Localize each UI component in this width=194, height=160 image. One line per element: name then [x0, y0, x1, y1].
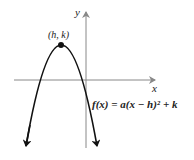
parabola-left-arrow [26, 125, 30, 146]
equation-label: f(x) = a(x − h)² + k [92, 98, 177, 110]
graph-canvas [0, 0, 194, 160]
x-axis-label: x [152, 82, 157, 94]
y-axis-label: y [75, 6, 80, 18]
vertex-label: (h, k) [48, 29, 69, 40]
vertex-point [58, 42, 64, 48]
